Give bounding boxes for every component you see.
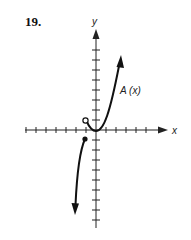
x-axis-arrow-icon (158, 127, 168, 134)
curve-left-branch (76, 139, 86, 205)
curve-arrow-up-icon (117, 55, 125, 68)
axes (25, 35, 160, 228)
function-graph: y x A (x) (0, 0, 191, 240)
curve-arrow-down-icon (72, 203, 80, 215)
x-axis-label: x (171, 125, 178, 136)
curve-right-branch (87, 66, 120, 131)
curve-label: A (x) (119, 85, 141, 96)
open-point-marker (83, 118, 88, 123)
y-axis-label: y (91, 16, 98, 27)
closed-point-marker (82, 136, 87, 141)
y-axis-arrow-icon (93, 29, 100, 39)
